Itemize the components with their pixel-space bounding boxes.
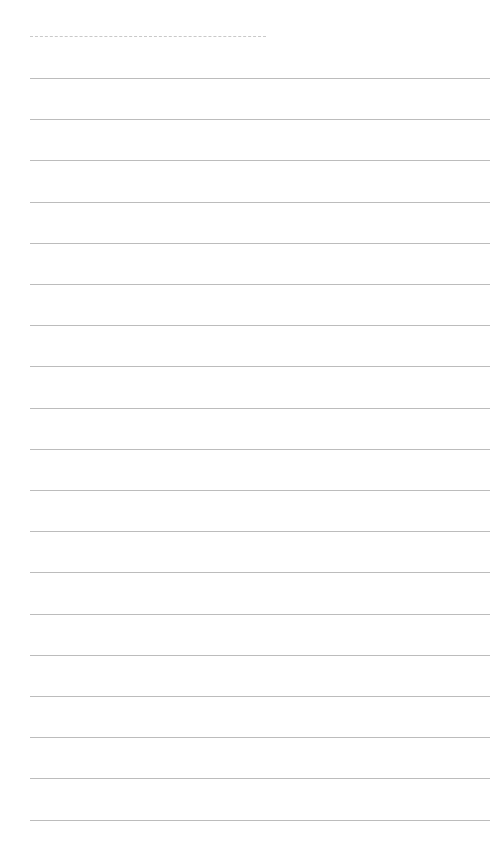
ruled-line bbox=[30, 243, 490, 244]
ruled-line bbox=[30, 655, 490, 656]
header-dashed-line bbox=[30, 36, 266, 37]
ruled-line bbox=[30, 820, 490, 821]
ruled-line bbox=[30, 490, 490, 491]
ruled-line bbox=[30, 778, 490, 779]
ruled-line bbox=[30, 696, 490, 697]
ruled-line bbox=[30, 119, 490, 120]
ruled-line bbox=[30, 366, 490, 367]
ruled-line bbox=[30, 449, 490, 450]
ruled-line bbox=[30, 572, 490, 573]
ruled-line bbox=[30, 737, 490, 738]
ruled-line bbox=[30, 531, 490, 532]
ruled-line bbox=[30, 284, 490, 285]
faint-header-text bbox=[110, 0, 490, 10]
ruled-line bbox=[30, 325, 490, 326]
ruled-line bbox=[30, 78, 490, 79]
ruled-line bbox=[30, 202, 490, 203]
ruled-line bbox=[30, 408, 490, 409]
ruled-line bbox=[30, 160, 490, 161]
ruled-line bbox=[30, 614, 490, 615]
